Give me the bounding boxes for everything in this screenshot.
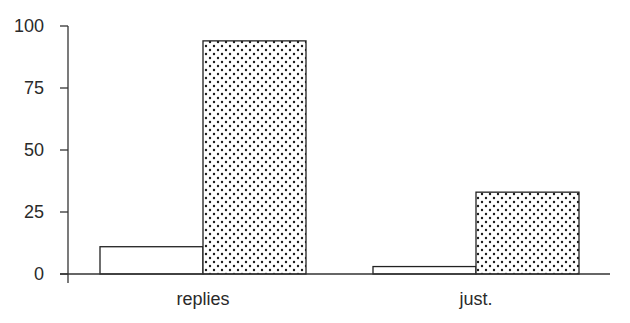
bar-just-series-2 xyxy=(476,192,579,274)
y-tick-label: 75 xyxy=(24,78,44,98)
bar-replies-series-2 xyxy=(203,41,306,274)
x-axis: repliesjust. xyxy=(60,274,610,309)
bars xyxy=(100,41,579,274)
x-category-label: replies xyxy=(176,289,229,309)
bar-chart: 0255075100 repliesjust. xyxy=(0,0,630,323)
y-tick-label: 25 xyxy=(24,202,44,222)
y-axis: 0255075100 xyxy=(14,16,68,284)
bar-replies-series-1 xyxy=(100,247,203,274)
y-tick-label: 0 xyxy=(34,264,44,284)
x-category-label: just. xyxy=(458,289,492,309)
y-tick-label: 100 xyxy=(14,16,44,36)
y-tick-label: 50 xyxy=(24,140,44,160)
bar-just-series-1 xyxy=(373,267,476,274)
